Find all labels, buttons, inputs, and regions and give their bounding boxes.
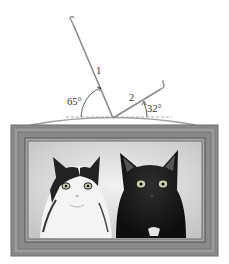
angle-label-32: 32° (147, 103, 162, 114)
angle-arc-65 (81, 88, 100, 117)
wire-2-hook-icon (161, 80, 164, 89)
wire-2-label: 2 (129, 92, 134, 103)
angle-label-65: 65° (67, 96, 82, 107)
wire-1-label: 1 (96, 65, 101, 76)
diagram-canvas: 1 2 65° 32° (0, 0, 229, 264)
wire-1-hook-icon (70, 17, 74, 25)
frame-hanging-wire (30, 118, 196, 126)
